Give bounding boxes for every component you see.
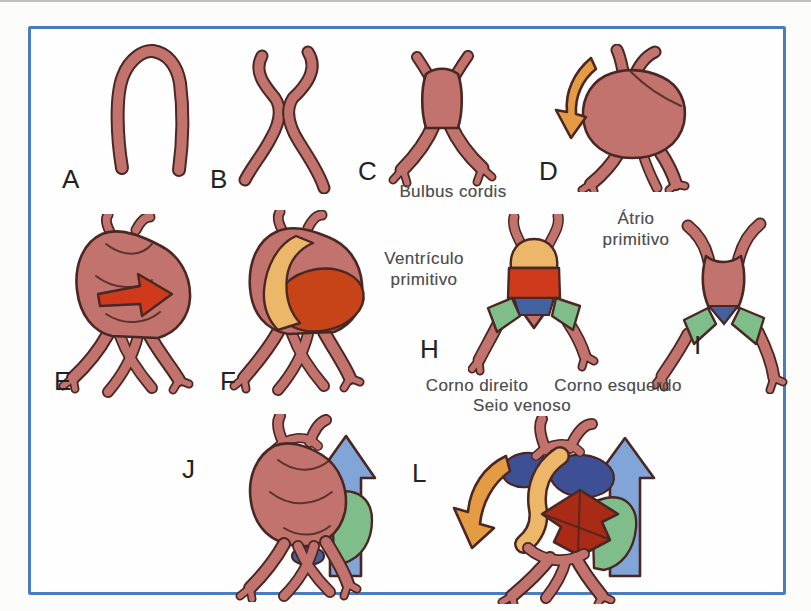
panel-letter-f: F	[220, 368, 236, 394]
panel-letter-h: H	[420, 336, 439, 362]
panel-letter-j: J	[182, 456, 196, 482]
panel-letter-b: B	[210, 166, 228, 192]
panel-letter-l: L	[412, 460, 427, 486]
figure-c-fused-tube	[382, 50, 502, 192]
panel-letter-i: I	[694, 332, 702, 358]
label-corno-esquerdo: Corno esquerdo	[536, 376, 700, 397]
figure-f-bulbus-ventricle	[216, 210, 378, 402]
figure-b-fusing-tubes	[218, 44, 353, 194]
panel-letter-e: E	[54, 368, 72, 394]
primitive-ventricle-segment	[508, 268, 560, 298]
panel-letter-c: C	[358, 158, 377, 184]
figure-h-segmented-heart	[468, 214, 606, 382]
scanned-figure-page: A B C Bulbus cordis	[0, 0, 811, 611]
figure-i-sinus-venosus	[652, 216, 794, 394]
looping-arrow-icon	[454, 456, 510, 548]
figure-l-composite-heart	[430, 416, 662, 604]
label-seio-venoso: Seio venoso	[446, 396, 598, 417]
figure-a-cardiac-tube	[92, 38, 212, 178]
figure-d-looping-heart	[543, 44, 711, 192]
label-bulbus-cordis: Bulbus cordis	[372, 182, 534, 203]
panel-letter-a: A	[62, 166, 80, 192]
label-corno-direito: Corno direito	[398, 376, 556, 397]
figure-j-heart-venous-arrow	[220, 414, 398, 602]
scan-edge-line	[0, 0, 811, 2]
panel-letter-d: D	[539, 158, 558, 184]
primitive-atrium-segment	[514, 298, 554, 315]
